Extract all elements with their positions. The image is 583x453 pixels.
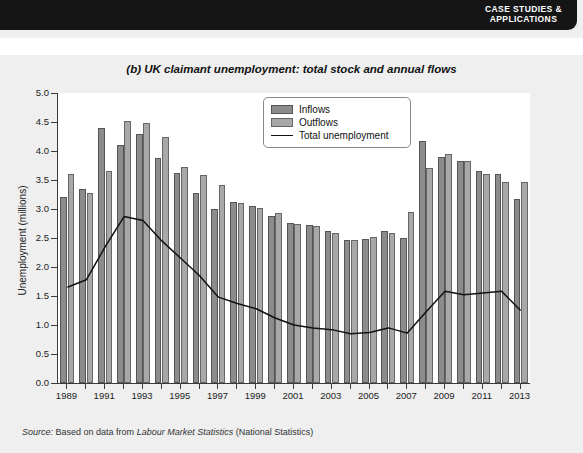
x-tick-label-2011: 2011 (462, 390, 502, 401)
x-tick-mark-2000 (274, 384, 275, 389)
source-prefix: Source: (22, 427, 53, 437)
plot-wrapper: Unemployment (millions) 0.00.51.01.52.02… (0, 85, 583, 415)
y-tick-label-4.5: 4.5 (9, 116, 49, 127)
case-studies-badge: CASE STUDIES & APPLICATIONS (470, 0, 577, 30)
x-tick-label-1991: 1991 (84, 390, 124, 401)
x-tick-label-2009: 2009 (424, 390, 464, 401)
x-tick-mark-1999 (255, 384, 256, 389)
y-tick-label-1.0: 1.0 (9, 319, 49, 330)
legend-item-total-unemployment: Total unemployment (271, 129, 403, 142)
figure-label: (b) (126, 63, 141, 75)
x-tick-mark-2004 (350, 384, 351, 389)
x-tick-mark-1995 (180, 384, 181, 389)
x-tick-mark-2013 (520, 384, 521, 389)
x-tick-mark-2008 (425, 384, 426, 389)
chart-legend: InflowsOutflowsTotal unemployment (263, 97, 411, 148)
x-tick-mark-1998 (236, 384, 237, 389)
y-tick-label-0.0: 0.0 (9, 377, 49, 388)
x-tick-mark-2009 (444, 384, 445, 389)
y-tick-label-5.0: 5.0 (9, 87, 49, 98)
y-tick-label-2.5: 2.5 (9, 232, 49, 243)
x-tick-mark-2012 (501, 384, 502, 389)
y-tick-label-4.0: 4.0 (9, 145, 49, 156)
x-tick-label-2001: 2001 (273, 390, 313, 401)
x-tick-mark-2006 (387, 384, 388, 389)
y-tick-label-3.0: 3.0 (9, 203, 49, 214)
legend-item-outflows: Outflows (271, 116, 403, 129)
header-black-band (0, 0, 496, 30)
figure-title-text: UK claimant unemployment: total stock an… (144, 63, 456, 75)
source-text-a: Based on data from (56, 427, 135, 437)
x-tick-mark-1992 (123, 384, 124, 389)
x-tick-mark-1996 (199, 384, 200, 389)
y-tick-label-0.5: 0.5 (9, 348, 49, 359)
source-text-b: (National Statistics) (236, 427, 314, 437)
source-italic-title: Labour Market Statistics (137, 427, 234, 437)
legend-swatch-icon-line (271, 131, 293, 140)
x-tick-mark-1994 (161, 384, 162, 389)
x-tick-mark-1990 (85, 384, 86, 389)
x-tick-mark-2010 (463, 384, 464, 389)
x-tick-label-2005: 2005 (349, 390, 389, 401)
x-tick-mark-2005 (369, 384, 370, 389)
x-tick-label-1997: 1997 (197, 390, 237, 401)
x-tick-label-1999: 1999 (235, 390, 275, 401)
x-tick-mark-1997 (217, 384, 218, 389)
legend-label: Total unemployment (299, 130, 389, 141)
x-tick-mark-1991 (104, 384, 105, 389)
legend-label: Inflows (299, 104, 330, 115)
legend-swatch-icon-inflow (271, 105, 293, 114)
x-tick-mark-2007 (406, 384, 407, 389)
y-tick-label-1.5: 1.5 (9, 290, 49, 301)
x-tick-mark-1989 (66, 384, 67, 389)
x-tick-mark-1993 (142, 384, 143, 389)
x-tick-mark-2001 (293, 384, 294, 389)
badge-line-2: APPLICATIONS (490, 14, 557, 25)
x-tick-label-1993: 1993 (122, 390, 162, 401)
x-tick-mark-2002 (312, 384, 313, 389)
y-tick-label-2.0: 2.0 (9, 261, 49, 272)
legend-swatch-icon-outflow (271, 118, 293, 127)
legend-label: Outflows (299, 117, 338, 128)
y-tick-label-3.5: 3.5 (9, 174, 49, 185)
x-tick-mark-2011 (482, 384, 483, 389)
figure-title: (b) UK claimant unemployment: total stoc… (0, 63, 583, 75)
legend-item-inflows: Inflows (271, 103, 403, 116)
x-tick-mark-2003 (331, 384, 332, 389)
x-tick-label-2007: 2007 (386, 390, 426, 401)
x-tick-label-1989: 1989 (46, 390, 86, 401)
figure-panel: (b) UK claimant unemployment: total stoc… (0, 55, 583, 453)
x-tick-label-2013: 2013 (500, 390, 540, 401)
badge-line-1: CASE STUDIES & (485, 4, 562, 15)
source-note: Source: Based on data from Labour Market… (22, 427, 313, 437)
x-tick-label-1995: 1995 (160, 390, 200, 401)
x-tick-label-2003: 2003 (311, 390, 351, 401)
page-white-gap (0, 38, 583, 55)
